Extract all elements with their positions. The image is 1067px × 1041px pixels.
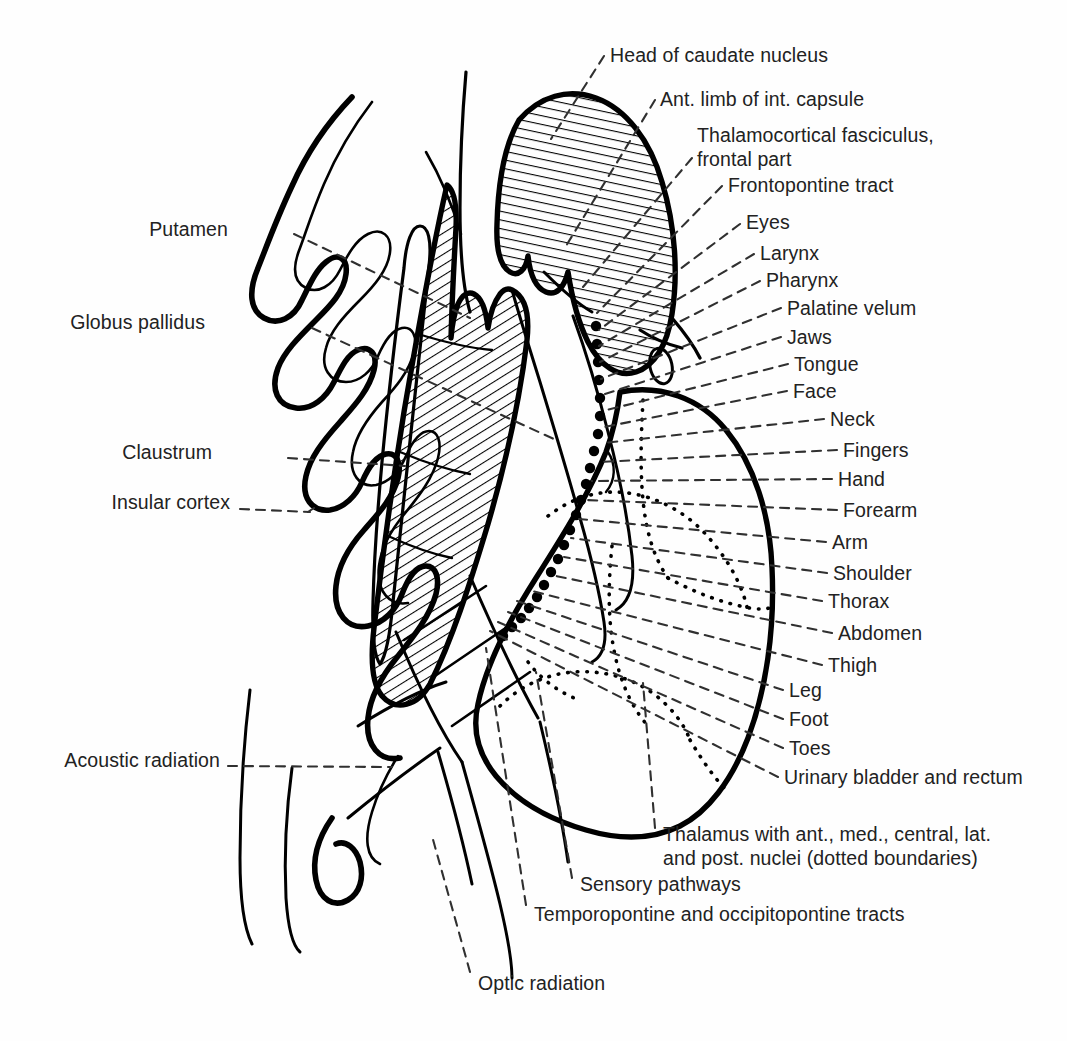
label-foot: Foot — [789, 708, 828, 730]
leader-hand — [592, 479, 832, 481]
label-fingers: Fingers — [843, 439, 909, 461]
label-pharynx: Pharynx — [766, 269, 838, 291]
label-optic-radiation: Optic radiation — [478, 972, 605, 994]
nucleus-boundary-5 — [500, 672, 690, 740]
brainstem-edge-2 — [540, 722, 568, 862]
nucleus-boundary-3 — [668, 578, 774, 609]
label-acoustic-radiation: Acoustic radiation — [38, 749, 220, 771]
label-larynx: Larynx — [760, 242, 819, 264]
leader-urinary-bladder — [490, 631, 778, 777]
label-thalamus-nuclei: Thalamus with ant., med., central, lat. … — [663, 822, 991, 870]
leader-neck — [603, 419, 824, 443]
hypothalamic-link — [672, 318, 700, 358]
lateral-ventricle-arc — [460, 72, 470, 312]
label-head-of-caudate-nucleus: Head of caudate nucleus — [610, 44, 828, 66]
label-thigh: Thigh — [828, 654, 877, 676]
label-putamen: Putamen — [96, 218, 228, 240]
leader-thalamus-nuclei — [643, 683, 655, 828]
leader-thorax — [564, 557, 822, 601]
insular-gyrus-tail — [315, 818, 362, 903]
label-claustrum: Claustrum — [92, 441, 212, 463]
nucleus-boundary-4 — [609, 546, 648, 726]
label-forearm: Forearm — [843, 499, 917, 521]
label-abdomen: Abdomen — [838, 622, 922, 644]
leader-acoustic-radiation — [228, 766, 392, 767]
label-urinary-bladder-and-rectum: Urinary bladder and rectum — [784, 766, 1023, 788]
leader-foot — [508, 612, 783, 719]
leader-sensory-pathways — [536, 672, 572, 878]
insular-edge-tail — [240, 690, 252, 944]
leader-fingers — [599, 450, 837, 462]
nucleus-boundary-7 — [528, 662, 574, 698]
label-leg: Leg — [789, 679, 822, 701]
label-palatine-velum: Palatine velum — [787, 297, 916, 319]
label-frontopontine-tract: Frontopontine tract — [728, 174, 894, 196]
insular-gyrus-lower — [367, 756, 398, 864]
insular-edge-tail2 — [285, 768, 300, 952]
label-thorax: Thorax — [828, 590, 889, 612]
label-temporopontine-occipitopontine: Temporopontine and occipitopontine tract… — [534, 903, 905, 925]
leader-face — [604, 391, 787, 427]
label-shoulder: Shoulder — [833, 562, 912, 584]
dot-row-bracket — [606, 452, 614, 492]
leader-insular-cortex-b — [240, 509, 310, 512]
leader-abdomen — [556, 576, 832, 633]
label-eyes: Eyes — [746, 211, 790, 233]
label-tongue: Tongue — [794, 353, 859, 375]
label-jaws: Jaws — [787, 326, 832, 348]
label-arm: Arm — [832, 531, 868, 553]
label-sensory-pathways: Sensory pathways — [580, 873, 741, 895]
label-thalamocortical-fasciculus: Thalamocortical fasciculus, frontal part — [697, 123, 934, 171]
leader-arm — [579, 519, 826, 542]
label-hand: Hand — [838, 468, 885, 490]
label-ant-limb-int-capsule: Ant. limb of int. capsule — [660, 88, 864, 110]
figure-canvas: Putamen Globus pallidus Claustrum Insula… — [0, 0, 1067, 1041]
label-face: Face — [793, 380, 837, 402]
label-toes: Toes — [789, 737, 831, 759]
leader-claustrum — [288, 458, 405, 466]
label-insular-cortex: Insular cortex — [74, 491, 230, 513]
label-globus-pallidus: Globus pallidus — [40, 311, 205, 333]
label-neck: Neck — [830, 408, 875, 430]
temporal-line-3 — [438, 752, 472, 884]
